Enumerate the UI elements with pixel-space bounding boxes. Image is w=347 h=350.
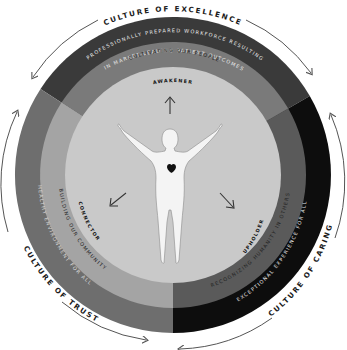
- arrow-trust-up-icon: [1, 112, 17, 232]
- culture-wheel-diagram: CULTURE OF EXCELLENCE CULTURE OF CARING …: [0, 0, 347, 350]
- arrow-caring-up-icon: [331, 115, 345, 238]
